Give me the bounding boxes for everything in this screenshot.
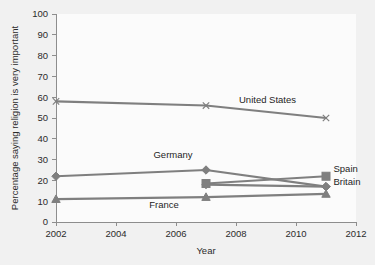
x-tick-label: 2012 <box>345 228 366 239</box>
y-tick-label: 60 <box>37 92 48 103</box>
series-label-united-states: United States <box>239 94 296 105</box>
y-tick-label: 30 <box>37 154 48 165</box>
x-tick-label: 2006 <box>165 228 186 239</box>
y-tick-label: 20 <box>37 175 48 186</box>
x-tick-label: 2008 <box>225 228 246 239</box>
y-tick-label: 0 <box>43 216 48 227</box>
series-label-spain: Spain <box>334 163 358 174</box>
x-axis-title: Year <box>196 245 215 256</box>
y-tick-label: 70 <box>37 71 48 82</box>
series-label-germany: Germany <box>153 149 192 160</box>
y-tick-label: 100 <box>32 8 48 19</box>
x-tick-label: 2010 <box>285 228 306 239</box>
chart-canvas: 0102030405060708090100 20022004200620082… <box>0 0 375 265</box>
line-chart: 0102030405060708090100 20022004200620082… <box>0 0 375 265</box>
plot-area-background <box>56 14 356 222</box>
y-tick-label: 80 <box>37 50 48 61</box>
y-axis-title: Percentage saying religion is very impor… <box>9 26 20 211</box>
x-tick-label: 2002 <box>45 228 66 239</box>
series-label-britain: Britain <box>334 176 361 187</box>
y-tick-label: 90 <box>37 29 48 40</box>
x-tick-label: 2004 <box>105 228 126 239</box>
data-point-marker <box>322 172 330 180</box>
y-tick-label: 10 <box>37 196 48 207</box>
y-tick-label: 50 <box>37 112 48 123</box>
y-tick-label: 40 <box>37 133 48 144</box>
series-label-france: France <box>149 199 179 210</box>
